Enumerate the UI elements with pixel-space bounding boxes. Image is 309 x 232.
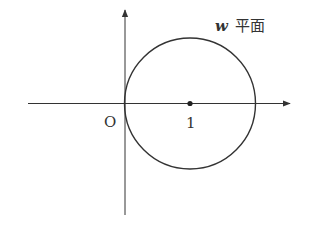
plane-variable-label: w	[215, 17, 229, 35]
center-point	[187, 101, 192, 106]
complex-plane-diagram: O 1 w 平面	[0, 0, 309, 232]
origin-label: O	[104, 113, 116, 131]
plane-text-label: 平面	[235, 17, 265, 35]
center-label: 1	[186, 114, 196, 132]
